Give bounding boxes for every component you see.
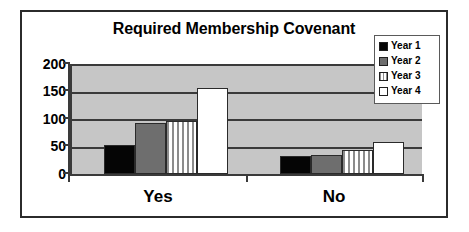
bar-yes-year1[interactable] [104,145,135,174]
legend-item-year-1[interactable]: Year 1 [379,39,435,53]
legend-swatch-icon [379,57,388,66]
bar-no-year3[interactable] [342,150,373,174]
y-axis-labels: 200 150 100 50 0 [22,12,66,216]
bar-no-year2[interactable] [311,155,342,174]
x-axis-tick [246,176,248,182]
y-axis-tick-label: 150 [22,84,66,98]
legend-item-label: Year 1 [391,41,420,51]
chart-legend: Year 1 Year 2 Year 3 Year 4 [374,35,440,104]
bar-yes-year2[interactable] [135,123,166,174]
y-axis-tick-label: 100 [22,112,66,126]
legend-swatch-icon [379,72,388,81]
bar-yes-year3[interactable] [166,121,197,174]
x-axis-category-label-yes: Yes [70,187,246,207]
y-axis-tick [63,89,70,91]
y-axis-tick [63,144,70,146]
y-axis-tick-label: 0 [22,167,66,181]
bar-yes-year4[interactable] [197,88,228,174]
y-axis-tick [63,117,70,119]
legend-swatch-icon [379,42,388,51]
bar-no-year4[interactable] [373,142,404,174]
legend-item-year-3[interactable]: Year 3 [379,69,435,83]
y-axis-tick-label: 50 [22,139,66,153]
x-axis-category-label-no: No [246,187,422,207]
chart-container: Required Membership Covenant 200 150 100… [20,10,448,218]
x-axis-tick [68,176,70,182]
legend-item-year-4[interactable]: Year 4 [379,84,435,98]
legend-swatch-icon [379,87,388,96]
y-axis-tick-label: 200 [22,57,66,71]
plot-area [70,64,422,174]
legend-item-year-2[interactable]: Year 2 [379,54,435,68]
legend-item-label: Year 2 [391,56,420,66]
bar-no-year1[interactable] [280,156,311,174]
gridline-150 [72,92,422,94]
y-axis-tick [63,62,70,64]
legend-item-label: Year 4 [391,86,420,96]
x-axis-tick [422,176,424,182]
legend-item-label: Year 3 [391,71,420,81]
gridline-100 [72,119,422,121]
